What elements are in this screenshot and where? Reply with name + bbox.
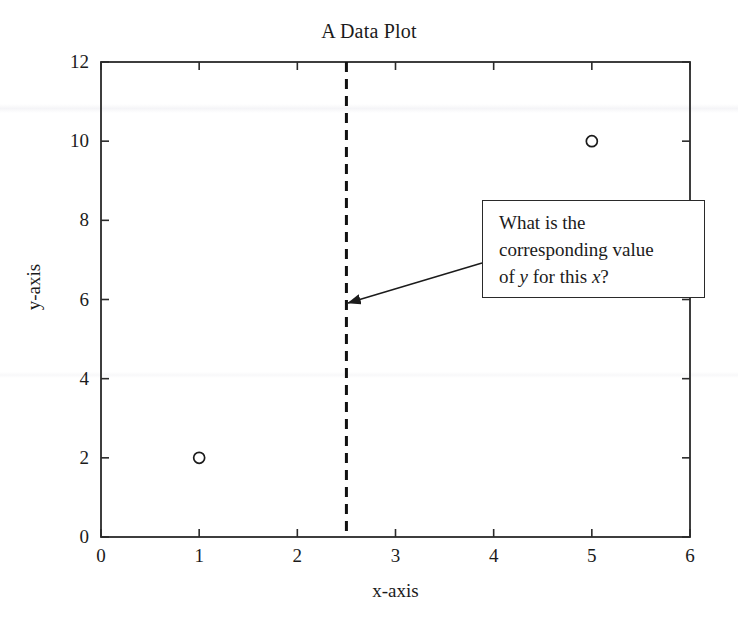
x-axis-ticks [101,62,690,537]
y-tick-label: 4 [43,368,89,390]
x-tick-label: 1 [179,545,219,567]
y-tick-label: 10 [43,130,89,152]
data-point-group [194,136,598,464]
y-tick-label: 2 [43,447,89,469]
x-tick-label: 6 [670,545,710,567]
y-tick-label: 0 [43,526,89,548]
x-axis-label: x-axis [101,580,690,602]
annotation-callout-text: What is thecorresponding valueof y for t… [499,209,695,290]
annotation-arrow [348,263,482,303]
y-tick-label: 12 [43,51,89,73]
y-axis-label: y-axis [23,227,45,347]
x-tick-label: 5 [572,545,612,567]
x-tick-label: 0 [81,545,121,567]
plot-frame [101,62,690,537]
x-tick-label: 2 [277,545,317,567]
x-tick-label: 4 [474,545,514,567]
annotation-callout-box: What is thecorresponding valueof y for t… [482,200,705,298]
x-tick-label: 3 [376,545,416,567]
y-axis-ticks [101,62,690,537]
chart-figure: A Data Plot 0123456 024681012 x-axis y-a… [0,0,738,620]
data-point-marker [194,452,205,463]
annotation-arrow-group [348,263,482,303]
y-tick-label: 6 [43,289,89,311]
plot-canvas [0,0,738,620]
y-tick-label: 8 [43,209,89,231]
data-point-marker [586,136,597,147]
